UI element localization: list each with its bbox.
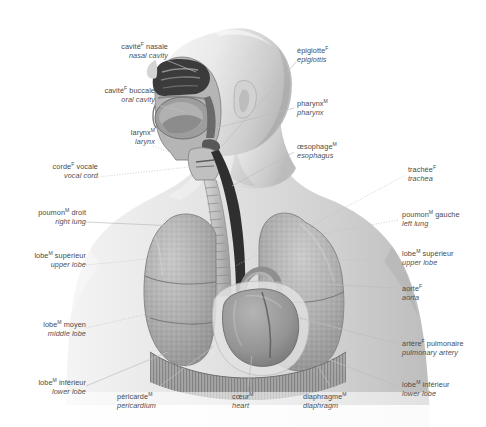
label-middle-lobe: lobeM moyen middle lobe xyxy=(0,318,86,339)
label-right-upper-lobe: lobeM supérieur upper lobe xyxy=(0,249,86,270)
label-trachea: trachéeF trachea xyxy=(408,163,436,184)
label-heart: cœurM heart xyxy=(232,390,254,411)
anatomy-figure: cavitéF nasale nasal cavity cavitéF bucc… xyxy=(0,0,486,427)
label-nasal-cavity: cavitéF nasale nasal cavity xyxy=(0,40,168,61)
label-larynx: larynxM larynx xyxy=(0,126,155,147)
label-epiglottis: épiglotteF epiglottis xyxy=(297,44,328,65)
sagittal-cutaway xyxy=(147,57,221,180)
label-right-lower-lobe: lobeM inférieur lower lobe xyxy=(0,376,86,397)
label-oral-cavity: cavitéF buccale oral cavity xyxy=(0,84,155,105)
label-right-lung: poumonM droit right lung xyxy=(0,206,86,227)
label-left-upper-lobe: lobeM supérieur upper lobe xyxy=(402,247,454,268)
label-pericardium: péricardeM pericardium xyxy=(117,390,156,411)
label-vocal-cord: cordeF vocale vocal cord xyxy=(0,160,98,181)
label-aorta: aorteF aorta xyxy=(402,282,422,303)
label-esophagus: œsophageM esophagus xyxy=(297,140,337,161)
label-left-lower-lobe: lobeM inférieur lower lobe xyxy=(402,378,450,399)
label-diaphragm: diaphragmeM diaphragm xyxy=(303,390,347,411)
label-pharynx: pharynxM pharynx xyxy=(297,97,328,118)
label-pulmonary-artery: artèreF pulmonaire pulmonary artery xyxy=(402,337,464,358)
label-left-lung: poumonM gauche left lung xyxy=(402,208,460,229)
